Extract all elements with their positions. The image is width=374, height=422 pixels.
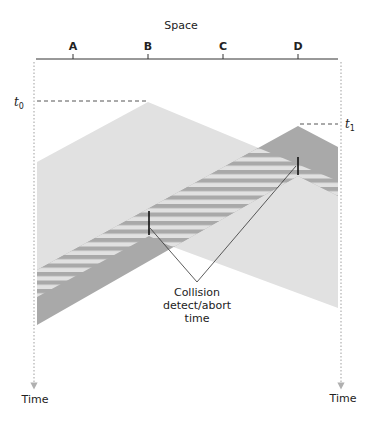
- station-b-label: B: [144, 40, 152, 53]
- station-d-label: D: [293, 40, 302, 53]
- station-a-label: A: [69, 40, 78, 53]
- t1-label: t1: [345, 117, 355, 133]
- callout-line-1: Collision: [174, 286, 220, 299]
- station-ticks: [73, 54, 298, 59]
- callout-line-2: detect/abort: [163, 299, 232, 312]
- right-time-label: Time: [329, 392, 357, 405]
- callout-line-3: time: [185, 312, 210, 325]
- t0-label: t0: [14, 95, 24, 111]
- left-time-label: Time: [21, 393, 49, 406]
- station-c-label: C: [219, 40, 227, 53]
- space-time-diagram: Space A B C D t0 t1 Collision detect/abo…: [0, 0, 374, 422]
- space-axis-title: Space: [164, 19, 198, 32]
